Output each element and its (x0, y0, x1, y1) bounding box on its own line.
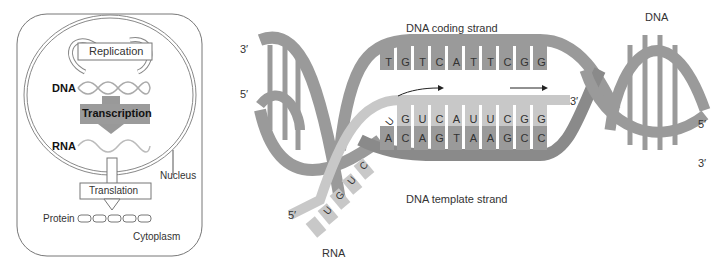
base: A (465, 132, 482, 144)
protein-label: Protein (43, 213, 75, 224)
dna-helix-small (78, 82, 150, 94)
rna-bases-row: G U C A U U C G G (397, 113, 550, 125)
template-strand-label: DNA template strand (406, 193, 508, 205)
base: C (499, 56, 516, 68)
coding-bases-row: T G T C A T T C G G (380, 56, 550, 68)
nucleus-label: Nucleus (160, 170, 196, 181)
base: C (431, 113, 448, 125)
rna-label-left: RNA (52, 140, 76, 152)
base: G (499, 132, 516, 144)
end-rna-3prime: 3′ (570, 95, 578, 107)
base: C (516, 132, 533, 144)
dna-label-right: DNA (645, 11, 668, 23)
rna-wave-small (78, 140, 150, 152)
direction-arrow-1 (398, 88, 438, 96)
cell-overview-panel: Replication DNA Transcription RNA Transl… (0, 0, 240, 270)
base: U (414, 113, 431, 125)
base: G (397, 113, 414, 125)
rna-label-right: RNA (322, 247, 345, 259)
base: C (431, 56, 448, 68)
translation-arrow-head (104, 199, 120, 210)
base: G (533, 56, 550, 68)
transcription-label: Transcription (82, 107, 152, 119)
base: T (482, 56, 499, 68)
transcription-bubble-panel: DNA coding strand DNA DNA template stran… (240, 0, 713, 270)
protein-chain (78, 215, 151, 222)
template-bases-row: A C A G T A A G C C (380, 132, 550, 144)
base: C (533, 132, 550, 144)
base: A (380, 132, 397, 144)
base: U (482, 113, 499, 125)
base: G (516, 113, 533, 125)
base: G (516, 56, 533, 68)
cytoplasm-label: Cytoplasm (133, 231, 180, 242)
replication-label: Replication (89, 45, 143, 57)
cell-diagram (0, 0, 240, 270)
transcription-arrow-head (98, 124, 124, 134)
end-left-top: 3′ (240, 43, 248, 55)
end-right-mid: 5′ (698, 118, 706, 130)
base: G (431, 132, 448, 144)
translation-label: Translation (89, 185, 138, 196)
base: A (482, 132, 499, 144)
base: G (397, 56, 414, 68)
end-rna-5prime: 5′ (288, 209, 296, 221)
end-right-bottom: 3′ (698, 157, 706, 169)
base: C (499, 113, 516, 125)
dna-label-left: DNA (52, 82, 76, 94)
base: G (533, 113, 550, 125)
base: T (380, 56, 397, 68)
base: C (397, 132, 414, 144)
base: A (448, 113, 465, 125)
base: U (465, 113, 482, 125)
base: T (414, 56, 431, 68)
base: T (448, 132, 465, 144)
base: A (414, 132, 431, 144)
base: T (465, 56, 482, 68)
coding-strand-label: DNA coding strand (406, 22, 498, 34)
base: A (448, 56, 465, 68)
end-left-mid: 5′ (240, 88, 248, 100)
translation-arrow-shaft (107, 158, 117, 186)
